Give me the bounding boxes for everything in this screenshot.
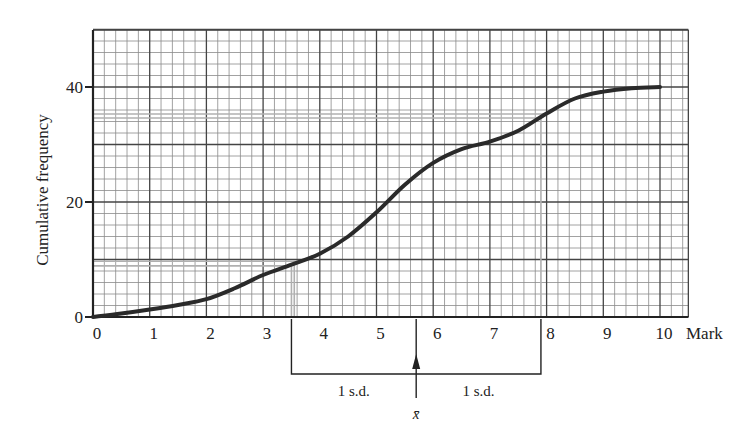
x-axis-title: Mark — [686, 324, 723, 343]
x-tick-label: 7 — [490, 324, 499, 343]
cumulative-frequency-chart: 012345678910 02040 Cumulative frequency … — [0, 0, 756, 443]
x-tick-label: 2 — [206, 324, 215, 343]
sd-right-label: 1 s.d. — [463, 383, 495, 399]
x-tick-label: 4 — [320, 324, 329, 343]
sd-annotation: 1 s.d. 1 s.d. x̄ — [291, 319, 540, 422]
x-tick-labels: 012345678910 — [93, 324, 673, 343]
x-tick-label: 6 — [433, 324, 442, 343]
x-tick-label: 9 — [603, 324, 612, 343]
mean-arrow-icon — [412, 354, 420, 369]
x-tick-label: 3 — [263, 324, 272, 343]
x-tick-label: 8 — [546, 324, 555, 343]
x-tick-label: 5 — [376, 324, 385, 343]
y-tick-label: 0 — [75, 308, 84, 327]
mean-label: x̄ — [412, 406, 420, 422]
y-tick-label: 40 — [66, 78, 83, 97]
x-tick-label: 10 — [656, 324, 673, 343]
y-axis-title: Cumulative frequency — [33, 114, 52, 266]
sd-left-label: 1 s.d. — [338, 383, 370, 399]
minor-grid — [93, 30, 688, 317]
x-tick-label: 1 — [149, 324, 158, 343]
major-grid — [93, 30, 688, 318]
x-tick-label: 0 — [93, 324, 102, 343]
y-tick-label: 20 — [66, 193, 83, 212]
y-tick-labels: 02040 — [66, 78, 83, 327]
axes — [85, 30, 688, 318]
